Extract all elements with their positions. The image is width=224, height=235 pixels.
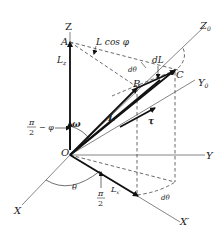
svg-text:π: π xyxy=(28,118,35,127)
y-axis-label: Y xyxy=(206,150,214,161)
lcosphi-pointer xyxy=(94,46,96,54)
l-vector-label: L xyxy=(107,112,115,123)
svg-text:2: 2 xyxy=(98,199,103,208)
dl-label: dL xyxy=(152,55,164,65)
origin-label: O xyxy=(61,147,69,158)
theta-label: θ xyxy=(72,183,77,192)
point-a-label: A xyxy=(60,36,68,47)
svg-text:2: 2 xyxy=(29,128,34,137)
dtheta-bottom-label: dθ xyxy=(161,194,170,202)
svg-text:− φ: − φ xyxy=(39,123,54,132)
pi-half-minus-phi-label: π 2 − φ xyxy=(27,118,54,137)
lz-label: Lz xyxy=(56,55,67,66)
point-c-label: C xyxy=(176,69,184,80)
tau-label: τ xyxy=(148,116,155,126)
z0-axis-label: Z0 xyxy=(199,20,211,32)
lx-prime-label: Lx′ xyxy=(110,185,121,195)
x-prime-axis-label: X′ xyxy=(179,216,190,227)
pi-half-label: π 2 xyxy=(97,189,105,208)
point-b-label: B xyxy=(132,78,140,89)
omega-label: ω xyxy=(72,119,81,129)
y0-axis-label: Y0 xyxy=(198,77,209,89)
dtheta-tick xyxy=(141,62,146,68)
x-axis-label: X xyxy=(13,205,22,216)
precession-diagram: Z A Lz L cos φ dθ dL B C Z0 Y0 L τ ω O Y… xyxy=(0,0,224,235)
l-cos-phi-label: L cos φ xyxy=(95,37,130,47)
o-to-c-projection xyxy=(70,155,175,182)
lx-prime-vector xyxy=(70,155,138,196)
dtheta-top-label: dθ xyxy=(128,66,137,74)
a-to-b-dashed xyxy=(70,42,137,87)
svg-text:π: π xyxy=(97,189,104,198)
z-axis-label: Z xyxy=(65,21,72,32)
